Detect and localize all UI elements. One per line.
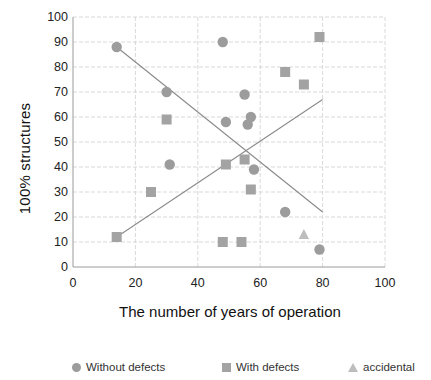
x-tick-label: 60 (240, 276, 280, 290)
data-point-circle (314, 244, 324, 254)
chart-legend: Without defects With defects accidental (0, 357, 431, 377)
data-point-square (240, 155, 250, 165)
y-tick-label: 30 (34, 185, 68, 199)
data-point-circle (165, 159, 175, 169)
y-tick-label: 10 (34, 235, 68, 249)
data-point-triangle (299, 229, 309, 239)
x-axis-tick-labels: 020406080100 (0, 276, 431, 296)
data-points (111, 32, 324, 255)
y-tick-label: 0 (34, 260, 68, 274)
data-point-square (280, 67, 290, 77)
y-tick-label: 100 (34, 10, 68, 24)
legend-item-without-defects: Without defects (72, 361, 165, 373)
square-marker-icon (222, 363, 231, 372)
data-point-circle (246, 112, 256, 122)
data-point-square (299, 80, 309, 90)
data-point-circle (161, 87, 171, 97)
data-point-square (221, 160, 231, 170)
legend-label: With defects (236, 361, 299, 373)
y-tick-label: 70 (34, 85, 68, 99)
data-point-square (162, 115, 172, 125)
y-tick-label: 60 (34, 110, 68, 124)
grid-lines (73, 17, 385, 267)
data-point-circle (218, 37, 228, 47)
y-tick-label: 90 (34, 35, 68, 49)
data-point-circle (280, 207, 290, 217)
y-tick-label: 20 (34, 210, 68, 224)
legend-item-with-defects: With defects (222, 361, 299, 373)
data-point-square (146, 187, 156, 197)
data-point-square (314, 32, 324, 42)
y-tick-label: 40 (34, 160, 68, 174)
legend-label: Without defects (86, 361, 165, 373)
x-tick-label: 0 (53, 276, 93, 290)
data-point-circle (239, 89, 249, 99)
x-tick-label: 40 (178, 276, 218, 290)
circle-marker-icon (72, 363, 81, 372)
x-tick-label: 100 (365, 276, 405, 290)
x-tick-label: 20 (115, 276, 155, 290)
rising-trendline (117, 100, 323, 238)
y-axis-title: 100% structures (16, 49, 33, 269)
data-point-circle (221, 117, 231, 127)
data-point-square (236, 237, 246, 247)
x-axis-title: The number of years of operation (60, 303, 400, 320)
legend-label: accidental (363, 361, 415, 373)
data-point-circle (111, 42, 121, 52)
data-point-square (246, 185, 256, 195)
legend-item-accidental: accidental (348, 361, 415, 373)
x-tick-label: 80 (303, 276, 343, 290)
y-tick-label: 50 (34, 135, 68, 149)
y-axis-tick-labels: 1009080706050403020100 (30, 0, 68, 380)
data-point-circle (249, 164, 259, 174)
triangle-marker-icon (348, 363, 358, 372)
data-point-square (112, 232, 122, 242)
y-tick-label: 80 (34, 60, 68, 74)
data-point-square (218, 237, 228, 247)
